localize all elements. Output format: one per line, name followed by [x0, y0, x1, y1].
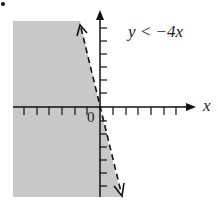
origin-label: 0	[87, 109, 95, 126]
x-axis-label: x	[203, 96, 211, 116]
inequality-graph	[0, 0, 218, 215]
x-axis-arrow-icon	[186, 103, 196, 111]
y-axis-arrow-icon	[96, 10, 104, 20]
shaded-region	[13, 21, 121, 197]
bullet-icon	[1, 2, 5, 6]
equation-label: y < −4x	[128, 22, 183, 42]
